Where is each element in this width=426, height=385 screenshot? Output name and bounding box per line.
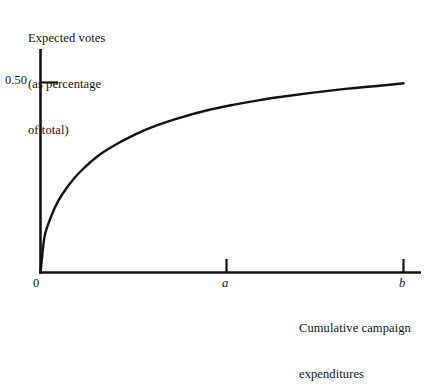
x-axis-title-line-2: expenditures <box>299 367 411 382</box>
expected-votes-curve <box>41 83 404 272</box>
